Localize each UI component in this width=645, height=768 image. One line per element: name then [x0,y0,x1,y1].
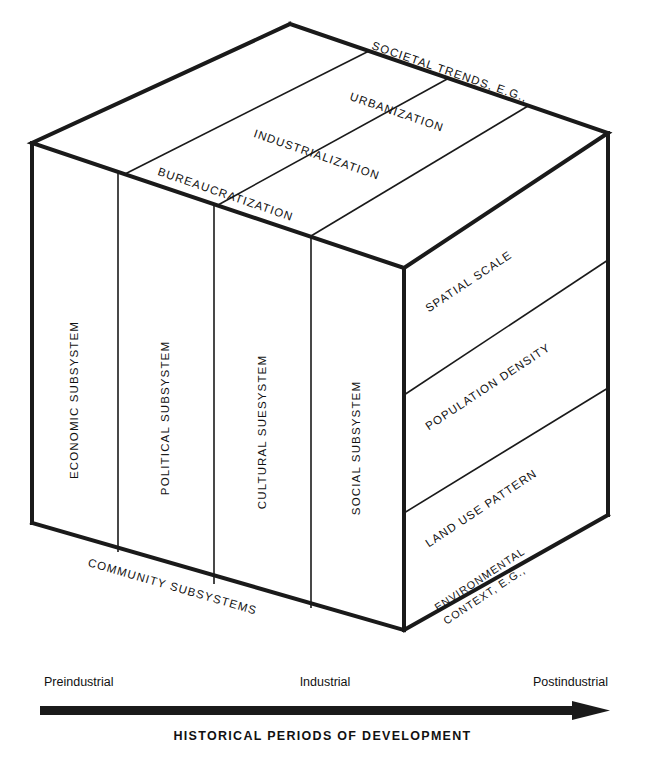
axis-label-industrial: Industrial [300,675,351,689]
arrow-shaft [40,706,578,715]
arrow-head [572,701,610,720]
arrow-svg [40,701,610,723]
front-column-label-economic: ECONOMIC SUBSYSTEM [68,321,80,479]
cube-illustration: SOCIETAL TRENDS, E.G., URBANIZATION INDU… [0,0,645,768]
axis-label-postindustrial: Postindustrial [533,675,608,689]
historical-axis: Preindustrial Industrial Postindustrial … [0,675,645,768]
axis-arrow-graphic [40,701,610,723]
axis-title: HISTORICAL PERIODS OF DEVELOPMENT [0,729,645,743]
diagram-canvas: SOCIETAL TRENDS, E.G., URBANIZATION INDU… [0,0,645,768]
axis-tick-labels: Preindustrial Industrial Postindustrial [40,675,610,697]
axis-label-preindustrial: Preindustrial [44,675,113,689]
front-column-label-cultural: CULTURAL SUESYSTEM [256,355,268,509]
front-column-label-social: SOCIAL SUBSYSTEM [350,381,362,515]
front-column-label-political: POLITICAL SUBSYSTEM [159,341,171,495]
